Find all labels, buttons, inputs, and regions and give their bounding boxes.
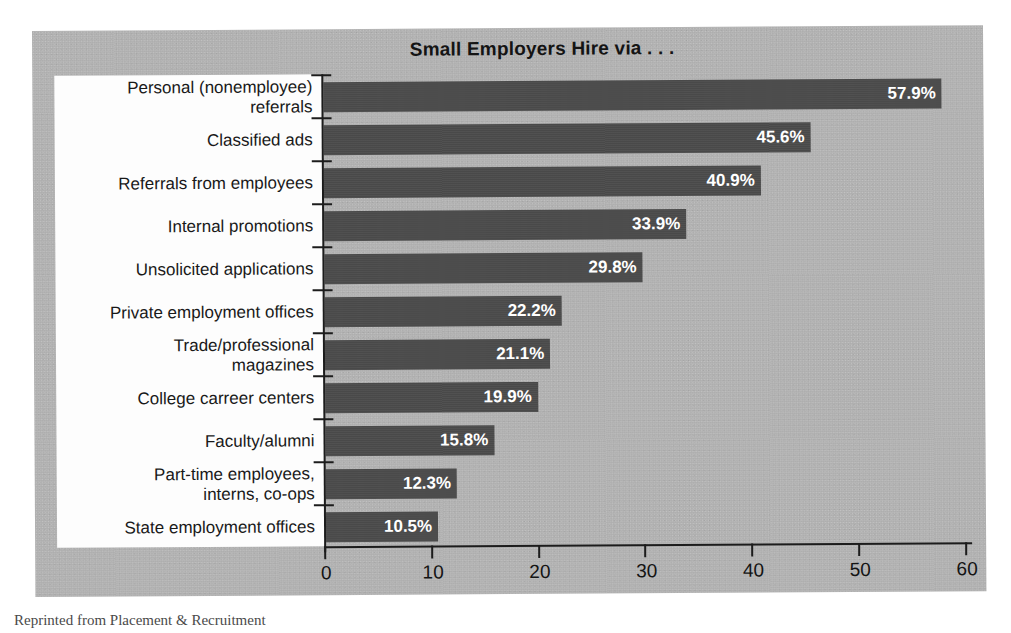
chart-title: Small Employers Hire via . . .: [372, 37, 712, 61]
bars-layer: 57.9%45.6%40.9%33.9%29.8%22.2%21.1%19.9%…: [32, 25, 986, 597]
figure-caption: Reprinted from Placement & Recruitment: [14, 612, 266, 629]
y-axis-tick: [313, 289, 333, 291]
bar-value-label: 29.8%: [324, 252, 636, 284]
x-axis-tick: [645, 544, 647, 557]
x-axis-tick-label: 40: [728, 559, 778, 581]
x-axis-tick-label: 10: [408, 561, 458, 583]
y-axis-tick: [314, 504, 334, 506]
x-axis-tick-label: 30: [622, 560, 672, 582]
x-axis-tick: [751, 544, 753, 557]
scanned-figure-page: Small Employers Hire via . . . Personal …: [0, 0, 1011, 633]
bar-value-label: 22.2%: [325, 295, 556, 326]
bar-value-label: 33.9%: [324, 209, 680, 241]
bar-value-label: 40.9%: [324, 165, 755, 198]
y-axis-tick: [313, 332, 333, 334]
x-axis-tick-label: 60: [942, 558, 992, 580]
bar-value-label: 57.9%: [323, 78, 936, 112]
x-axis-tick-label: 0: [301, 562, 351, 584]
bar-value-label: 21.1%: [325, 338, 545, 369]
x-axis-tick-label: 50: [835, 559, 885, 581]
bar-value-label: 19.9%: [325, 381, 532, 412]
y-axis-tick: [312, 246, 332, 248]
y-axis-tick: [312, 160, 332, 162]
bar-value-label: 15.8%: [325, 425, 488, 456]
y-axis-tick: [311, 74, 331, 76]
y-axis-tick: [313, 375, 333, 377]
x-axis-tick: [858, 543, 860, 556]
bar-value-label: 45.6%: [324, 122, 805, 155]
y-axis-tick: [314, 461, 334, 463]
y-axis-tick: [312, 203, 332, 205]
y-axis-tick: [313, 418, 333, 420]
chart-plot-panel: Small Employers Hire via . . . Personal …: [32, 25, 986, 597]
x-axis-tick: [538, 545, 540, 558]
y-axis-tick: [312, 117, 332, 119]
x-axis-tick: [431, 546, 433, 559]
x-axis-tick: [324, 546, 326, 559]
bar-value-label: 12.3%: [326, 468, 452, 499]
bar-value-label: 10.5%: [326, 511, 432, 542]
x-axis-tick: [965, 542, 967, 555]
x-axis-tick-label: 20: [515, 561, 565, 583]
